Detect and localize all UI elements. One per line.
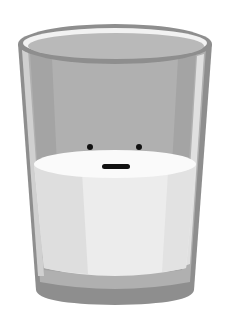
glass-rim-inner <box>28 33 204 59</box>
left-eye <box>87 144 93 150</box>
right-eye <box>136 144 142 150</box>
glass-icon <box>0 0 228 326</box>
mouth <box>102 164 130 169</box>
